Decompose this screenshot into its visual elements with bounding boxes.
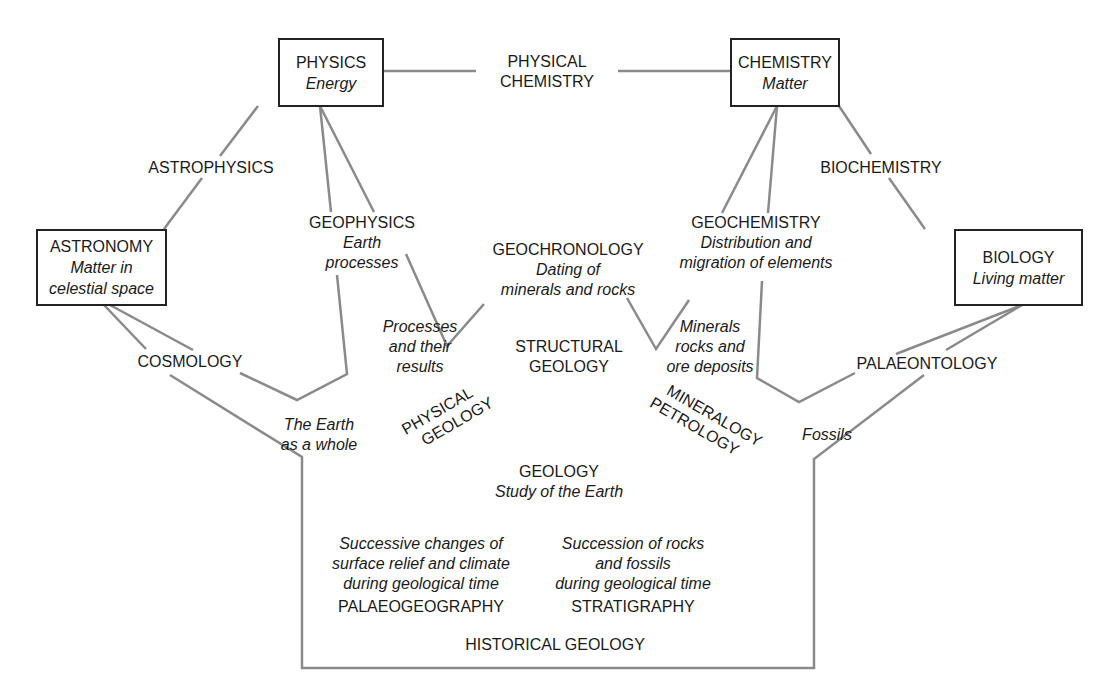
structural-line2: GEOLOGY — [515, 357, 623, 377]
processes-line2: and their — [383, 337, 458, 357]
stratigraphy-label: Succession of rocks and fossils during g… — [555, 534, 711, 617]
palaeogeography-desc3: during geological time — [332, 574, 510, 594]
fossils-label: Fossils — [802, 425, 852, 445]
astronomy-subtitle-2: celestial space — [49, 278, 154, 299]
geochemistry-title: GEOCHEMISTRY — [680, 213, 833, 233]
palaeogeography-desc2: surface relief and climate — [332, 554, 510, 574]
geochronology-label: GEOCHRONOLOGY Dating of minerals and roc… — [492, 240, 643, 300]
geology-desc: Study of the Earth — [495, 482, 623, 502]
historical-geology-label: HISTORICAL GEOLOGY — [465, 635, 645, 655]
astrophysics-label: ASTROPHYSICS — [148, 158, 273, 178]
geophysics-desc1: Earth — [309, 233, 415, 253]
physics-title: PHYSICS — [296, 52, 366, 73]
physical-chemistry-line1: PHYSICAL — [500, 52, 594, 72]
minerals-line3: ore deposits — [666, 357, 753, 377]
chemistry-box: CHEMISTRY Matter — [730, 38, 840, 107]
stratigraphy-title: STRATIGRAPHY — [555, 597, 711, 617]
processes-line3: results — [383, 357, 458, 377]
chemistry-title: CHEMISTRY — [738, 52, 832, 73]
biology-subtitle: Living matter — [973, 268, 1065, 289]
physical-chemistry-line2: CHEMISTRY — [500, 72, 594, 92]
biology-title: BIOLOGY — [982, 247, 1054, 268]
astronomy-box: ASTRONOMY Matter in celestial space — [36, 229, 167, 306]
minerals-label: Minerals rocks and ore deposits — [666, 317, 753, 377]
geophysics-title: GEOPHYSICS — [309, 213, 415, 233]
geophysics-label: GEOPHYSICS Earth processes — [309, 213, 415, 273]
palaeontology-label: PALAEONTOLOGY — [857, 354, 998, 374]
astronomy-title: ASTRONOMY — [50, 236, 153, 257]
chemistry-subtitle: Matter — [762, 73, 807, 94]
cosmology-label: COSMOLOGY — [138, 352, 243, 372]
structural-line1: STRUCTURAL — [515, 337, 623, 357]
geochronology-title: GEOCHRONOLOGY — [492, 240, 643, 260]
astronomy-subtitle-1: Matter in — [70, 257, 132, 278]
processes-line1: Processes — [383, 317, 458, 337]
palaeogeography-desc1: Successive changes of — [332, 534, 510, 554]
geology-label: GEOLOGY Study of the Earth — [495, 462, 623, 502]
stratigraphy-desc2: and fossils — [555, 554, 711, 574]
physics-box: PHYSICS Energy — [278, 38, 384, 107]
earth-whole-label: The Earth as a whole — [281, 415, 358, 455]
structural-geology-label: STRUCTURAL GEOLOGY — [515, 337, 623, 377]
biochemistry-label: BIOCHEMISTRY — [820, 158, 942, 178]
stratigraphy-desc1: Succession of rocks — [555, 534, 711, 554]
minerals-line1: Minerals — [666, 317, 753, 337]
geochemistry-desc2: migration of elements — [680, 253, 833, 273]
minerals-line2: rocks and — [666, 337, 753, 357]
geophysics-desc2: processes — [309, 253, 415, 273]
earth-whole-line2: as a whole — [281, 435, 358, 455]
geochemistry-label: GEOCHEMISTRY Distribution and migration … — [680, 213, 833, 273]
physical-chemistry-label: PHYSICAL CHEMISTRY — [500, 52, 594, 92]
geochronology-desc2: minerals and rocks — [492, 280, 643, 300]
stratigraphy-desc3: during geological time — [555, 574, 711, 594]
geochronology-desc1: Dating of — [492, 260, 643, 280]
physics-subtitle: Energy — [306, 73, 357, 94]
palaeogeography-title: PALAEOGEOGRAPHY — [332, 597, 510, 617]
palaeogeography-label: Successive changes of surface relief and… — [332, 534, 510, 617]
biology-box: BIOLOGY Living matter — [954, 229, 1083, 306]
geochemistry-desc1: Distribution and — [680, 233, 833, 253]
processes-label: Processes and their results — [383, 317, 458, 377]
geology-title: GEOLOGY — [495, 462, 623, 482]
earth-whole-line1: The Earth — [281, 415, 358, 435]
